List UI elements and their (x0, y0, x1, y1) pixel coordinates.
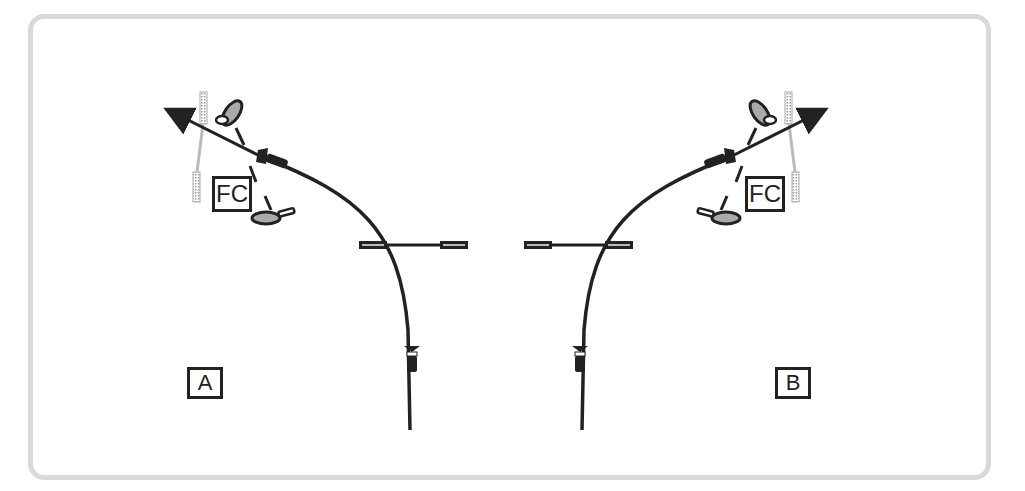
golfer-marker-icon (572, 346, 588, 372)
club-head-icon (703, 148, 736, 169)
bar-marker-icon (524, 241, 633, 249)
swing-path (262, 157, 410, 430)
foot-icon (252, 208, 295, 224)
alignment-stick-icon (785, 92, 799, 202)
golfer-marker-icon (404, 346, 420, 372)
alignment-stick-icon (193, 92, 207, 202)
panel-b (524, 92, 818, 430)
foot-icon (216, 98, 246, 129)
diagram-canvas (0, 0, 1025, 491)
panel-label-b: B (775, 367, 811, 399)
club-head-icon (256, 148, 289, 169)
fc-label-a: FC (212, 176, 252, 212)
panel-label-a: A (187, 367, 223, 399)
bar-marker-icon (359, 241, 468, 249)
foot-icon (746, 98, 776, 129)
foot-icon (697, 208, 740, 224)
swing-path (582, 157, 730, 430)
fc-label-b: FC (745, 176, 785, 212)
